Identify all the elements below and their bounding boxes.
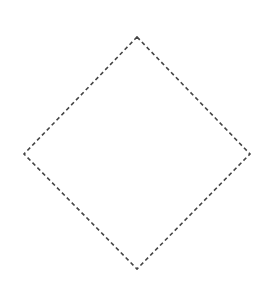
dashed-diamond-shape[interactable] xyxy=(24,37,250,269)
diagram-canvas xyxy=(0,0,275,299)
